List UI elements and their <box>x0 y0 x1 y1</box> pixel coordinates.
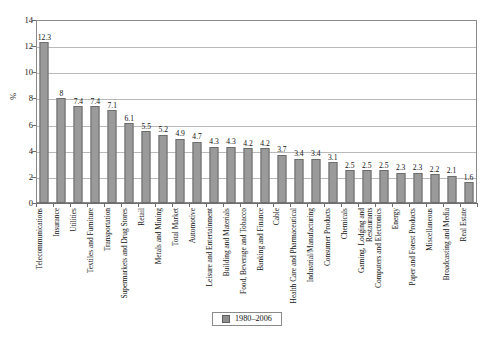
bar-value-label: 4.7 <box>192 133 202 141</box>
x-axis-category-label: Banking and Finance <box>257 208 274 271</box>
bar-value-label: 4.2 <box>243 140 253 148</box>
y-axis-tick-label: 10 <box>7 68 33 77</box>
bar-value-label: 7.1 <box>108 102 118 110</box>
bar-value-label: 3.7 <box>277 146 287 154</box>
bar-value-label: 2.5 <box>362 162 372 170</box>
bar-value-label: 4.3 <box>209 138 219 146</box>
bar-chart: % 02468101214 12.387.47.47.16.15.55.24.9… <box>0 0 494 337</box>
bar-slot: 2.5 <box>358 20 375 203</box>
x-axis-category-label: Total Market <box>172 208 189 246</box>
bar <box>396 173 405 203</box>
bar <box>57 98 66 203</box>
x-axis-category-label: Transportation <box>104 208 121 251</box>
bar <box>74 106 83 203</box>
y-axis-tick-label: 12 <box>7 42 33 51</box>
x-axis-tick-mark <box>341 203 342 207</box>
x-axis-tick-mark <box>189 203 190 207</box>
bar-value-label: 6.1 <box>125 115 135 123</box>
bar-value-label: 3.4 <box>294 150 304 158</box>
x-axis-category-label: Textiles and Furniture <box>87 208 104 273</box>
bar-slot: 3.4 <box>307 20 324 203</box>
x-axis-tick-mark <box>138 203 139 207</box>
legend-label: 1980–2006 <box>235 315 272 323</box>
bar-slot: 4.2 <box>240 20 257 203</box>
x-axis-category-label: Supermarkets and Drug Stores <box>121 208 138 299</box>
bar <box>176 139 185 203</box>
bar-slot: 2.1 <box>443 20 460 203</box>
bar-value-label: 2.3 <box>413 164 423 172</box>
bar-slot: 8 <box>53 20 70 203</box>
y-axis-tick-mark <box>32 98 36 99</box>
y-axis-tick-label: 8 <box>7 94 33 103</box>
bar <box>362 170 371 203</box>
x-axis-tick-mark <box>53 203 54 207</box>
x-axis-tick-mark <box>104 203 105 207</box>
x-axis-category-label: Insurance <box>53 208 70 237</box>
bar <box>210 147 219 203</box>
x-axis-category-label: Broadcasting and Media <box>443 208 460 280</box>
bar-slot: 7.4 <box>87 20 104 203</box>
bar-value-label: 4.3 <box>226 138 236 146</box>
bar <box>125 123 134 203</box>
bar <box>244 148 253 203</box>
bar-value-label: 7.4 <box>91 98 101 106</box>
bar-value-label: 12.3 <box>38 34 51 42</box>
x-axis-tick-mark <box>426 203 427 207</box>
bar-slot: 7.4 <box>70 20 87 203</box>
x-axis-tick-mark <box>257 203 258 207</box>
bar <box>430 174 439 203</box>
x-axis-category-label: Retail <box>138 208 155 226</box>
x-axis-category-label: Energy <box>392 208 409 229</box>
x-axis-tick-mark <box>460 203 461 207</box>
bar-value-label: 7.4 <box>74 98 84 106</box>
x-axis-tick-mark <box>87 203 88 207</box>
bar-slot: 6.1 <box>121 20 138 203</box>
bar <box>464 182 473 203</box>
bar-slot: 4.3 <box>206 20 223 203</box>
x-axis-tick-mark <box>70 203 71 207</box>
bar-value-label: 3.1 <box>328 154 338 162</box>
bar <box>91 106 100 203</box>
x-axis-labels: TelecommunicationsInsuranceUtilitiesText… <box>36 208 477 304</box>
x-axis-category-label: Metals and Mining <box>155 208 172 264</box>
bar <box>345 170 354 203</box>
y-axis-tick-label: 0 <box>7 199 33 208</box>
x-axis-category-label: Gaming, Lodging and Restaurants <box>358 208 375 304</box>
bar <box>311 159 320 203</box>
x-axis-category-label: Health Care and Pharmaceutical <box>290 208 307 303</box>
y-axis-tick-label: 4 <box>7 147 33 156</box>
x-axis-tick-mark <box>273 203 274 207</box>
x-axis-category-label: Chemicals <box>341 208 358 239</box>
x-axis-tick-mark <box>375 203 376 207</box>
x-axis-category-label: Consumer Products <box>324 208 341 266</box>
y-axis-ticks: 02468101214 <box>0 0 33 203</box>
x-axis-tick-mark <box>477 203 478 207</box>
y-axis-tick-label: 6 <box>7 121 33 130</box>
bar <box>413 173 422 203</box>
x-axis-tick-mark <box>324 203 325 207</box>
y-axis-tick-mark <box>32 151 36 152</box>
bar-value-label: 2.2 <box>430 166 440 174</box>
bar <box>447 176 456 203</box>
bar-slot: 2.5 <box>341 20 358 203</box>
bar-slot: 3.1 <box>324 20 341 203</box>
x-axis-tick-mark <box>307 203 308 207</box>
bar-slot: 4.3 <box>223 20 240 203</box>
bar-slot: 7.1 <box>104 20 121 203</box>
x-axis-tick-mark <box>443 203 444 207</box>
bar-value-label: 2.1 <box>447 167 457 175</box>
x-axis-category-label: Automotive <box>189 208 206 243</box>
bar <box>260 148 269 203</box>
x-axis-category-label: Food, Beverage and Tobacco <box>240 208 257 294</box>
bar-slot: 1.6 <box>460 20 477 203</box>
bar-value-label: 1.6 <box>464 174 474 182</box>
bar-slot: 2.3 <box>409 20 426 203</box>
bar <box>142 131 151 203</box>
bar-slot: 4.2 <box>257 20 274 203</box>
x-axis-tick-mark <box>240 203 241 207</box>
bar-slot: 4.7 <box>189 20 206 203</box>
x-axis-tick-mark <box>206 203 207 207</box>
x-axis-category-label: Utilities <box>70 208 87 232</box>
bar-slot: 5.2 <box>155 20 172 203</box>
y-axis-tick-mark <box>32 46 36 47</box>
